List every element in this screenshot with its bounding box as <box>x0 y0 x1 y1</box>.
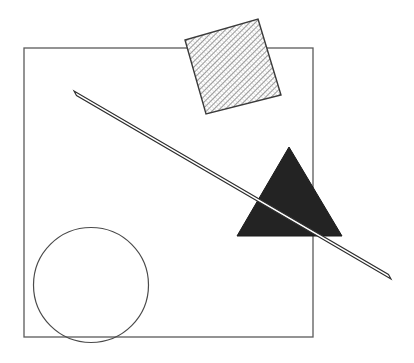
shapes-svg <box>0 0 414 363</box>
filled-triangle <box>237 147 342 236</box>
rotated-hatched-square <box>185 19 281 114</box>
diagonal-bar <box>74 91 391 279</box>
circle <box>34 228 149 343</box>
figure-canvas: Geometric shapes composition <box>0 0 414 363</box>
